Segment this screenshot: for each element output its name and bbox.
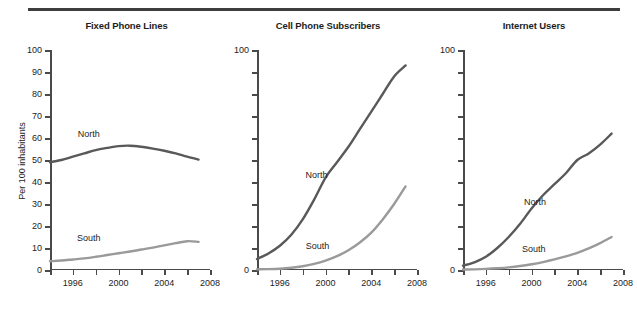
- x-axis-tick: [600, 270, 602, 275]
- series-lines: [463, 50, 623, 270]
- panel-title: Internet Users: [431, 20, 637, 31]
- x-axis-tick: [119, 270, 121, 275]
- chart-page: Fixed Phone Lines Per 100 inhabitants 01…: [0, 0, 637, 310]
- x-axis-tick: [257, 270, 259, 275]
- y-axis-tick-label: 100: [27, 45, 42, 55]
- series-annotation-south: South: [522, 244, 546, 254]
- panel-title: Fixed Phone Lines: [0, 20, 225, 31]
- x-axis-tick-label: 2008: [407, 278, 427, 288]
- y-axis-tick-label: 0: [244, 265, 249, 275]
- x-axis-tick-label: 2000: [522, 278, 542, 288]
- y-axis-tick-label: 20: [32, 221, 42, 231]
- series-lines: [50, 50, 210, 270]
- y-axis-tick-label: 0: [450, 265, 455, 275]
- plot-area: 01001996200020042008NorthSouth: [257, 50, 417, 270]
- x-axis-tick: [394, 270, 396, 275]
- x-axis-tick: [486, 270, 488, 275]
- x-axis-tick: [141, 270, 143, 275]
- x-axis-tick: [532, 270, 534, 275]
- series-line-north: [50, 146, 199, 163]
- x-axis-tick: [577, 270, 579, 275]
- y-axis-tick-label: 100: [440, 45, 455, 55]
- x-axis-tick-label: 1996: [270, 278, 290, 288]
- x-axis-tick: [417, 270, 419, 275]
- x-axis-tick: [73, 270, 75, 275]
- panel-internet-users: Internet Users 01001996200020042008North…: [431, 16, 637, 310]
- x-axis-tick-label: 1996: [476, 278, 496, 288]
- x-axis-tick: [303, 270, 305, 275]
- series-annotation-south: South: [306, 241, 330, 251]
- series-line-south: [257, 186, 406, 269]
- x-axis-tick: [348, 270, 350, 275]
- y-axis-tick-label: 60: [32, 133, 42, 143]
- y-axis-tick-label: 10: [32, 243, 42, 253]
- x-axis-tick: [509, 270, 511, 275]
- x-axis-tick: [371, 270, 373, 275]
- x-axis-tick-label: 2004: [154, 278, 174, 288]
- plot-area: 01001996200020042008NorthSouth: [463, 50, 623, 270]
- y-axis-tick-label: 50: [32, 155, 42, 165]
- x-axis-tick-label: 2008: [613, 278, 633, 288]
- y-axis-tick-label: 100: [234, 45, 249, 55]
- x-axis-tick: [210, 270, 212, 275]
- x-axis-tick-label: 2000: [316, 278, 336, 288]
- series-annotation-north: North: [524, 197, 546, 207]
- x-axis-tick: [50, 270, 52, 275]
- panel-fixed-phone-lines: Fixed Phone Lines Per 100 inhabitants 01…: [0, 16, 225, 310]
- x-axis-tick: [96, 270, 98, 275]
- x-axis-tick: [164, 270, 166, 275]
- series-line-north: [257, 65, 406, 259]
- y-axis-tick-label: 40: [32, 177, 42, 187]
- x-axis-tick: [554, 270, 556, 275]
- y-axis-tick-label: 0: [37, 265, 42, 275]
- x-axis-tick: [187, 270, 189, 275]
- series-annotation-north: North: [78, 129, 100, 139]
- x-axis-tick-label: 2000: [109, 278, 129, 288]
- x-axis-tick-label: 2004: [361, 278, 381, 288]
- x-axis-tick: [623, 270, 625, 275]
- header-divider: [28, 8, 620, 11]
- panels-container: Fixed Phone Lines Per 100 inhabitants 01…: [0, 16, 637, 310]
- series-annotation-south: South: [77, 233, 101, 243]
- series-lines: [257, 50, 417, 270]
- x-axis-tick-label: 2008: [200, 278, 220, 288]
- x-axis-tick: [326, 270, 328, 275]
- panel-title: Cell Phone Subscribers: [225, 20, 431, 31]
- y-axis-label: Per 100 inhabitants: [17, 86, 27, 236]
- series-annotation-north: North: [305, 170, 327, 180]
- y-axis-tick-label: 70: [32, 111, 42, 121]
- panel-cell-phone-subscribers: Cell Phone Subscribers 01001996200020042…: [225, 16, 431, 310]
- series-line-south: [50, 241, 199, 261]
- x-axis-tick-label: 1996: [63, 278, 83, 288]
- x-axis-tick: [280, 270, 282, 275]
- plot-area: 01020304050607080901001996200020042008No…: [50, 50, 210, 270]
- y-axis-tick-label: 90: [32, 67, 42, 77]
- y-axis-tick-label: 80: [32, 89, 42, 99]
- y-axis-tick-label: 30: [32, 199, 42, 209]
- x-axis-tick-label: 2004: [567, 278, 587, 288]
